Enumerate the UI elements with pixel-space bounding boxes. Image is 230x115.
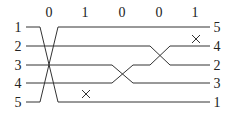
cross-mark-icon: [82, 90, 90, 98]
left-label-2: 2: [15, 39, 22, 54]
right-label-3: 2: [214, 58, 221, 73]
wire-3: [26, 65, 210, 83]
column-label-4: 0: [156, 5, 163, 20]
permutation-diagram: 0 1 0 0 1 1 2 3 4 5 5 4 2 3 1: [0, 0, 230, 115]
left-label-5: 5: [15, 95, 22, 110]
right-label-5: 1: [214, 95, 221, 110]
right-label-4: 3: [214, 76, 221, 91]
column-label-2: 1: [82, 5, 89, 20]
left-label-4: 4: [15, 76, 22, 91]
right-label-1: 5: [214, 20, 221, 35]
column-label-3: 0: [119, 5, 126, 20]
left-label-1: 1: [15, 20, 22, 35]
right-label-2: 4: [214, 39, 221, 54]
column-label-5: 1: [192, 5, 199, 20]
cross-mark-icon: [192, 35, 200, 43]
column-label-1: 0: [46, 5, 53, 20]
wire-2: [26, 46, 210, 65]
left-label-3: 3: [15, 58, 22, 73]
